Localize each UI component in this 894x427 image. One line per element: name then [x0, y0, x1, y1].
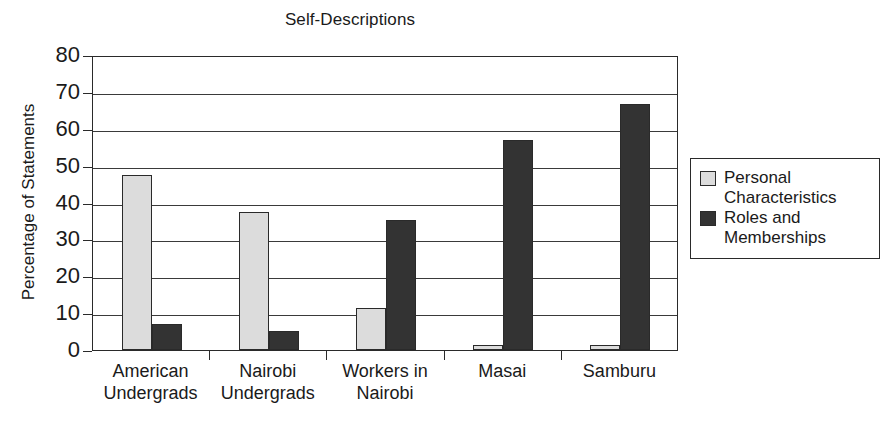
- y-tick-label: 10: [20, 302, 80, 324]
- bar: [269, 331, 299, 350]
- y-tick-label: 50: [20, 155, 80, 177]
- x-tick-mark: [326, 351, 327, 360]
- y-tick-label: 70: [20, 81, 80, 103]
- legend-item-roles: Roles andMemberships: [700, 208, 871, 248]
- y-tick-label: 60: [20, 118, 80, 140]
- x-category-label: Samburu: [551, 360, 688, 382]
- y-tick-label: 0: [20, 339, 80, 361]
- y-tick-mark: [83, 351, 92, 352]
- chart-figure: Self-Descriptions Percentage of Statemen…: [0, 0, 894, 427]
- gridline: [93, 241, 677, 242]
- bar: [386, 220, 416, 350]
- plot-area: [92, 56, 678, 351]
- y-tick-mark: [83, 277, 92, 278]
- gridline: [93, 131, 677, 132]
- chart-legend: PersonalCharacteristics Roles andMembers…: [690, 158, 880, 259]
- y-tick-mark: [83, 93, 92, 94]
- x-tick-mark: [209, 351, 210, 360]
- y-tick-label: 20: [20, 265, 80, 287]
- bar: [590, 345, 620, 350]
- y-tick-mark: [83, 130, 92, 131]
- y-tick-mark: [83, 240, 92, 241]
- y-tick-mark: [83, 56, 92, 57]
- x-tick-mark: [444, 351, 445, 360]
- bar: [122, 175, 152, 350]
- chart-title: Self-Descriptions: [0, 10, 700, 30]
- legend-item-personal: PersonalCharacteristics: [700, 168, 871, 208]
- legend-swatch-roles-icon: [700, 211, 716, 226]
- gridline: [93, 168, 677, 169]
- y-tick-label: 40: [20, 192, 80, 214]
- y-tick-label: 30: [20, 228, 80, 250]
- page-edge: [0, 417, 894, 427]
- bar: [620, 104, 650, 350]
- y-tick-label: 80: [20, 44, 80, 66]
- y-tick-mark: [83, 204, 92, 205]
- bar: [239, 212, 269, 350]
- legend-label-personal: PersonalCharacteristics: [724, 168, 836, 208]
- gridline: [93, 278, 677, 279]
- legend-swatch-personal-icon: [700, 171, 716, 186]
- bar: [356, 308, 386, 350]
- bar: [473, 345, 503, 350]
- bar: [152, 324, 182, 350]
- legend-label-roles: Roles andMemberships: [724, 208, 826, 248]
- gridline: [93, 94, 677, 95]
- gridline: [93, 205, 677, 206]
- y-tick-mark: [83, 314, 92, 315]
- y-tick-mark: [83, 167, 92, 168]
- bar: [503, 140, 533, 350]
- x-tick-mark: [561, 351, 562, 360]
